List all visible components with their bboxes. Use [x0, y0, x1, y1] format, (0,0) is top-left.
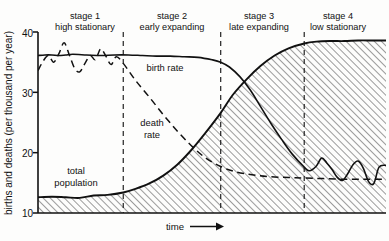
total-population-label-line2: population	[54, 177, 97, 188]
y-tick-label-10: 10	[22, 208, 34, 219]
stage-3-subtitle: late expanding	[229, 22, 289, 32]
birth-rate-label: birth rate	[147, 62, 184, 73]
y-tick-label-20: 20	[22, 148, 34, 159]
y-tick-label-40: 40	[22, 28, 34, 39]
stage-1-title: stage 1	[70, 11, 100, 21]
x-axis-title: time	[166, 221, 184, 232]
stage-4-subtitle: low stationary	[310, 22, 367, 32]
stage-3-title: stage 3	[244, 11, 274, 21]
y-tick-label-30: 30	[22, 88, 34, 99]
stage-4-title: stage 4	[323, 11, 353, 21]
demographic-transition-chart: 40 30 20 10 births and deaths (per thous…	[0, 0, 389, 241]
death-rate-label-line1: death	[140, 117, 163, 128]
death-rate-label-line2: rate	[144, 129, 160, 140]
chart-canvas: 40 30 20 10 births and deaths (per thous…	[0, 0, 389, 241]
stage-2-title: stage 2	[157, 11, 187, 21]
total-population-label-line1: total	[67, 165, 85, 176]
stage-1-subtitle: high stationary	[55, 22, 115, 32]
stage-2-subtitle: early expanding	[140, 22, 205, 32]
y-axis-title: births and deaths (per thousand per year…	[3, 31, 14, 215]
